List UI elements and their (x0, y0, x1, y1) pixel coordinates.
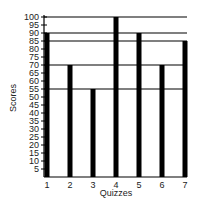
x-tick-label: 6 (159, 180, 164, 190)
x-tick-label: 2 (67, 180, 72, 190)
y-axis-title: Scores (8, 83, 18, 112)
x-axis-title: Quizzes (100, 188, 133, 198)
bar-chart: 5101520253035404550556065707580859095100… (0, 0, 197, 205)
y-tick-label: 100 (24, 12, 39, 22)
x-tick-label: 5 (136, 180, 141, 190)
x-tick-label: 1 (44, 180, 49, 190)
bar-quiz-6 (160, 65, 165, 177)
bar-quiz-2 (68, 65, 73, 177)
bar-quiz-3 (91, 89, 96, 177)
x-tick-label: 7 (182, 180, 187, 190)
bar-quiz-7 (183, 41, 188, 177)
bar-quiz-5 (137, 33, 142, 177)
bar-quiz-4 (114, 17, 119, 177)
x-tick-label: 3 (90, 180, 95, 190)
